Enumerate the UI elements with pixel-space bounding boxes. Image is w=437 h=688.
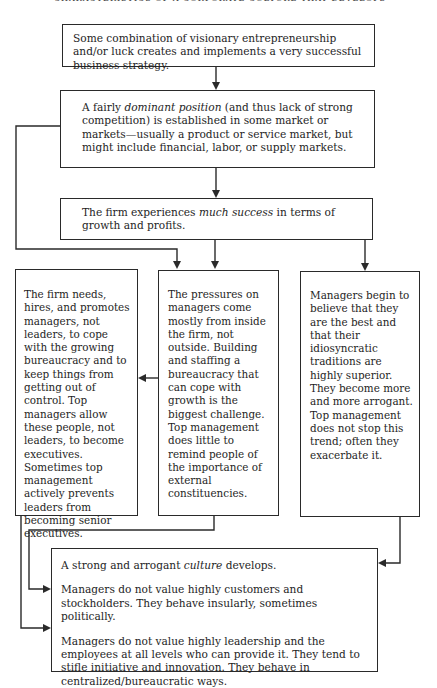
leadership-text: Managers do not value highly leadership … <box>61 635 369 688</box>
node-text: Managers begin to believe that they are … <box>310 289 415 462</box>
node-text: The pressures on managers come mostly fr… <box>168 288 274 501</box>
node-much-success: The firm experiences much success in ter… <box>60 198 373 240</box>
node-internal-pressures: The pressures on managers come mostly fr… <box>158 270 279 516</box>
node-arrogance: Managers begin to believe that they are … <box>300 271 420 517</box>
emphasis-text: dominant position <box>124 101 221 113</box>
culture-develops-text: A strong and arrogant culture develops. <box>61 559 369 572</box>
customers-text: Managers do not value highly customers a… <box>61 583 369 623</box>
node-text: The firm experiences much success in ter… <box>82 206 362 233</box>
node-arrogant-culture: A strong and arrogant culture develops. … <box>51 548 378 672</box>
emphasis-text: much success <box>199 206 273 218</box>
node-text: Some combination of visionary entreprene… <box>73 32 364 72</box>
node-text: The firm needs, hires, and promotes mana… <box>24 288 133 541</box>
node-hires-managers: The firm needs, hires, and promotes mana… <box>15 269 138 516</box>
node-dominant-position: A fairly dominant position (and thus lac… <box>60 90 375 168</box>
node-text: A fairly dominant position (and thus lac… <box>82 101 364 155</box>
page-title-fragment: CHARACTERISTICS OF A CORPORATE CULTURE T… <box>40 0 400 4</box>
node-visionary-strategy: Some combination of visionary entreprene… <box>62 24 375 67</box>
emphasis-text: culture <box>184 559 223 571</box>
